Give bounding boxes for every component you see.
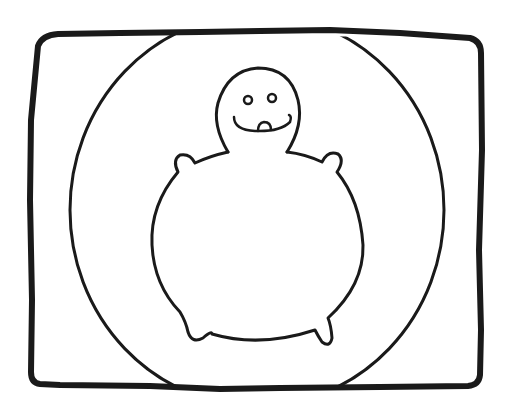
left-eye bbox=[244, 96, 252, 104]
body bbox=[152, 152, 363, 344]
drawing-canvas bbox=[0, 0, 510, 417]
large-circle bbox=[70, 14, 444, 406]
head bbox=[216, 68, 299, 152]
right-eye bbox=[268, 94, 276, 102]
eyes bbox=[244, 94, 276, 104]
frame-border bbox=[30, 30, 482, 389]
